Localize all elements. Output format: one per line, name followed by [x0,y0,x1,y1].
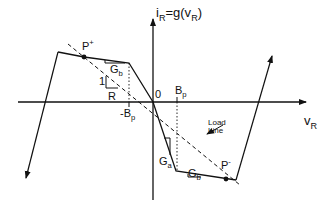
slope-r-label: R [108,91,116,102]
p-minus-point [224,177,229,182]
characteristic-curve [58,52,236,180]
iv-characteristic-diagram [0,0,331,208]
bp-pos-label: Bp [175,85,187,96]
load-line [68,44,240,185]
x-axis-label: vR [304,114,317,127]
y-axis-label: iR=g(vR) [156,6,202,19]
ga-slope-marker [164,138,170,155]
load-line-label: Load Line [208,119,226,135]
p-plus-point [82,55,87,60]
bp-neg-label: -Bp [120,108,135,119]
p-minus-label: P- [221,160,231,171]
right-branch-arrow [236,56,272,180]
p-plus-label: P+ [82,41,94,52]
slope-one-label: 1 [99,76,105,87]
ga-label: Ga [159,156,172,167]
origin-label: 0 [155,89,161,100]
gb-upper-label: Gb [110,64,123,75]
left-branch-arrow [26,52,58,178]
r-slope-triangle [106,76,118,88]
gb-lower-label: Gb [188,168,201,179]
